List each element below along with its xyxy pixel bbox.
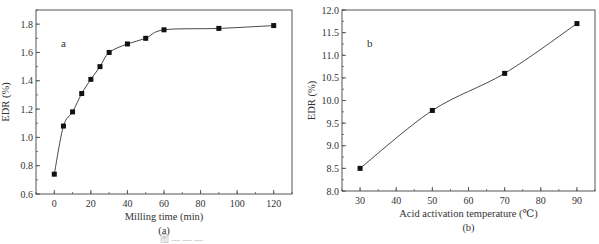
panel-letter: b <box>367 37 373 49</box>
x-tick-label: 120 <box>266 198 281 209</box>
y-tick-label: 1.4 <box>21 75 34 86</box>
x-tick-label: 60 <box>464 195 474 206</box>
data-point-marker <box>52 172 57 177</box>
panel-sub-label: (b) <box>462 222 475 234</box>
series-line <box>54 26 273 175</box>
y-tick-label: 11.5 <box>322 27 339 38</box>
x-tick-label: 80 <box>536 195 546 206</box>
data-point-marker <box>271 23 276 28</box>
data-point-marker <box>107 50 112 55</box>
x-tick-label: 50 <box>427 195 437 206</box>
x-tick-label: 100 <box>230 198 245 209</box>
panel-letter: a <box>61 37 66 49</box>
chart-panel-a: 0204060801001200.60.81.01.21.41.61.8Mill… <box>0 10 292 237</box>
y-tick-label: 12.0 <box>322 5 340 16</box>
x-tick-label: 90 <box>572 195 582 206</box>
data-point-marker <box>143 36 148 41</box>
y-tick-label: 8.0 <box>327 186 340 197</box>
data-point-marker <box>61 124 66 129</box>
plot-frame <box>342 10 595 191</box>
x-tick-label: 80 <box>196 198 206 209</box>
data-point-marker <box>216 26 221 31</box>
data-point-marker <box>79 91 84 96</box>
y-tick-label: 1.0 <box>21 132 34 143</box>
x-tick-label: 20 <box>86 198 96 209</box>
y-tick-label: 1.8 <box>21 19 34 30</box>
y-tick-label: 9.0 <box>327 140 340 151</box>
data-point-marker <box>574 21 579 26</box>
y-tick-label: 0.6 <box>21 189 34 200</box>
y-tick-label: 0.8 <box>21 160 34 171</box>
figure-canvas: 0204060801001200.60.81.01.21.41.61.8Mill… <box>0 0 599 244</box>
x-tick-label: 60 <box>159 198 169 209</box>
x-tick-label: 40 <box>122 198 132 209</box>
data-point-marker <box>430 108 435 113</box>
y-tick-label: 10.5 <box>322 72 340 83</box>
chart-panel-b: 304050607080908.08.59.09.510.010.511.011… <box>306 5 595 235</box>
y-axis-title: EDR (%) <box>0 82 12 122</box>
x-tick-label: 30 <box>355 195 365 206</box>
y-tick-label: 1.6 <box>21 47 34 58</box>
data-point-marker <box>88 77 93 82</box>
x-tick-label: 40 <box>391 195 401 206</box>
data-point-marker <box>502 71 507 76</box>
y-tick-label: 1.2 <box>21 104 34 115</box>
plot-frame <box>36 10 292 194</box>
data-point-marker <box>358 166 363 171</box>
y-tick-label: 9.5 <box>327 118 340 129</box>
data-point-marker <box>98 64 103 69</box>
series-line <box>360 24 577 169</box>
x-tick-label: 70 <box>500 195 510 206</box>
y-tick-label: 11.0 <box>322 50 339 61</box>
x-tick-label: 0 <box>52 198 57 209</box>
x-axis-title: Milling time (min) <box>125 211 204 223</box>
data-point-marker <box>125 41 130 46</box>
y-tick-label: 10.0 <box>322 95 340 106</box>
x-axis-title: Acid activation temperature (℃) <box>399 208 538 220</box>
y-axis-title: EDR (%) <box>306 80 318 120</box>
data-point-marker <box>162 27 167 32</box>
y-tick-label: 8.5 <box>327 163 340 174</box>
data-point-marker <box>70 109 75 114</box>
figure-caption: 图 — — — <box>160 232 203 244</box>
